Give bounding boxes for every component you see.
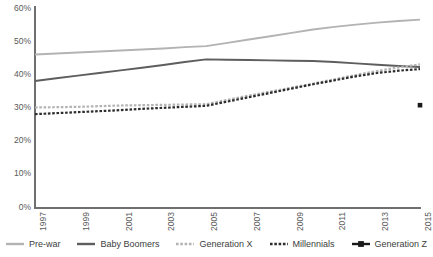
x-axis-tick-label: 2001 xyxy=(125,212,134,231)
x-axis-tick-label: 1999 xyxy=(82,212,91,231)
legend-label: Generation Z xyxy=(375,239,428,249)
line-chart: 0%10%20%30%40%50%60% 1997199920012003200… xyxy=(0,0,433,257)
legend-swatch-generation-x-icon xyxy=(176,239,194,249)
legend-swatch-generation-z-icon xyxy=(352,239,370,249)
legend-item-generation-z[interactable]: Generation Z xyxy=(352,239,428,249)
x-axis-tick-label: 2005 xyxy=(210,212,219,231)
legend-label: Pre-war xyxy=(29,239,61,249)
legend-label: Baby Boomers xyxy=(100,239,159,249)
legend-swatch-millennials-icon xyxy=(270,239,288,249)
legend-swatch-baby-boomers-icon xyxy=(77,239,95,249)
legend-item-pre-war[interactable]: Pre-war xyxy=(6,239,61,249)
legend-label: Millennials xyxy=(293,239,335,249)
x-axis-tick-label: 2015 xyxy=(424,212,433,231)
x-axis-tick-label: 2011 xyxy=(338,212,347,230)
x-axis-tick-label: 2009 xyxy=(296,212,305,231)
legend-item-baby-boomers[interactable]: Baby Boomers xyxy=(77,239,159,249)
x-axis-tick-label: 2013 xyxy=(381,212,390,231)
legend-swatch-pre-war-icon xyxy=(6,239,24,249)
legend-item-millennials[interactable]: Millennials xyxy=(270,239,335,249)
legend-item-generation-x[interactable]: Generation X xyxy=(176,239,252,249)
x-axis-tick-label: 2003 xyxy=(167,212,176,231)
x-axis-tick-labels: 1997199920012003200520072009201120132015 xyxy=(0,0,433,257)
chart-legend: Pre-warBaby BoomersGeneration XMillennia… xyxy=(0,236,433,252)
x-axis-tick-label: 2007 xyxy=(253,212,262,231)
legend-label: Generation X xyxy=(199,239,252,249)
x-axis-tick-label: 1997 xyxy=(39,212,48,231)
